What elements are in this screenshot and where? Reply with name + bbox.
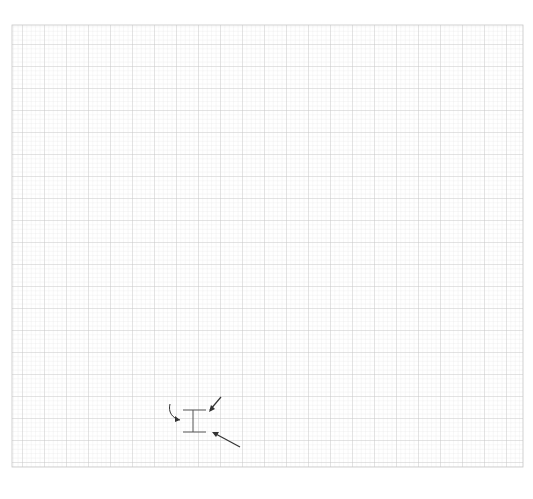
ecg-chart bbox=[0, 0, 533, 499]
ecg-paper bbox=[12, 25, 523, 467]
